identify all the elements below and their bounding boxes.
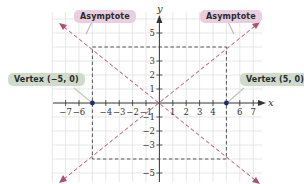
svg-text:1: 1: [170, 107, 175, 117]
x-axis-label: x: [268, 97, 274, 108]
svg-text:2: 2: [150, 70, 155, 80]
svg-text:6: 6: [237, 107, 242, 117]
vertex-callout-right: Vertex (5, 0): [240, 73, 304, 86]
asymptote-callout-right: Asymptote: [200, 10, 262, 23]
y-axis-label: y: [156, 3, 163, 14]
x-axis-arrow-icon: [258, 100, 266, 106]
callout-leaders: [86, 22, 234, 34]
vertex-callout-left: Vertex (−5, 0): [8, 73, 85, 86]
svg-text:−1: −1: [142, 112, 155, 122]
svg-text:5: 5: [150, 28, 155, 38]
svg-text:−3: −3: [113, 107, 126, 117]
grid: [52, 12, 262, 182]
svg-text:2: 2: [183, 107, 188, 117]
svg-text:1: 1: [150, 84, 155, 94]
svg-text:−3: −3: [142, 140, 155, 150]
svg-text:4: 4: [210, 107, 215, 117]
coordinate-plane: x y −7−6 −4−3 −2−1 12 34 67 53 21 −1−2 −…: [0, 0, 304, 184]
svg-text:−6: −6: [73, 107, 86, 117]
vertex-point-right: [224, 101, 229, 106]
svg-text:−5: −5: [142, 168, 155, 178]
vertex-point-left: [90, 101, 95, 106]
svg-text:−7: −7: [59, 107, 72, 117]
svg-text:−4: −4: [100, 107, 113, 117]
asymptote-callout-left: Asymptote: [74, 10, 136, 23]
svg-text:7: 7: [250, 107, 255, 117]
svg-text:3: 3: [150, 56, 155, 66]
svg-text:−2: −2: [142, 126, 155, 136]
svg-text:3: 3: [197, 107, 202, 117]
svg-text:−2: −2: [126, 107, 139, 117]
